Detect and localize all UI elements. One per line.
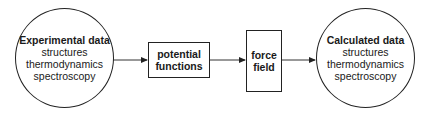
- potential-functions-line-1: potential: [157, 48, 201, 60]
- experimental-item-spectroscopy: spectroscopy: [34, 70, 96, 82]
- experimental-item-thermodynamics: thermodynamics: [26, 58, 103, 70]
- potential-functions-node: potential functions: [148, 42, 210, 78]
- force-field-node: force field: [246, 30, 282, 92]
- experimental-data-title: Experimental data: [19, 34, 109, 46]
- force-field-line-1: force: [251, 49, 277, 61]
- calculated-item-spectroscopy: spectroscopy: [335, 70, 397, 82]
- experimental-data-node: Experimental data structures thermodynam…: [15, 8, 114, 108]
- calculated-data-title: Calculated data: [327, 34, 405, 46]
- force-field-line-2: field: [253, 61, 275, 73]
- calculated-item-structures: structures: [342, 46, 388, 58]
- calculated-data-node: Calculated data structures thermodynamic…: [316, 8, 415, 108]
- potential-functions-line-2: functions: [155, 60, 202, 72]
- calculated-item-thermodynamics: thermodynamics: [327, 58, 404, 70]
- experimental-item-structures: structures: [41, 46, 87, 58]
